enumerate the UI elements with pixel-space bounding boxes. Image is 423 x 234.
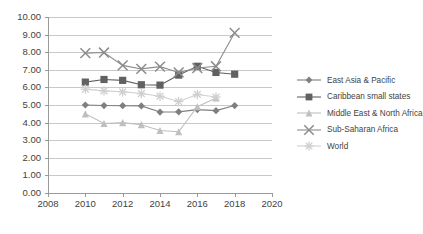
series-0 (82, 101, 239, 115)
data-point-x (230, 28, 240, 38)
y-axis-line (48, 17, 49, 194)
legend-item-2[interactable]: Middle East & North Africa (296, 105, 414, 122)
y-tick-label: 8.00 (0, 47, 41, 57)
data-point-diamond (231, 102, 238, 109)
data-point-diamond (306, 77, 313, 84)
x-tick-mark (85, 194, 86, 197)
x-tick-label: 2010 (75, 199, 96, 209)
x-tick-label: 2020 (261, 199, 282, 209)
legend-label: Caribbean small states (327, 92, 410, 101)
y-tick-label: 3.00 (0, 135, 41, 145)
data-point-square (212, 69, 219, 76)
x-tick-mark (197, 194, 198, 197)
legend-label: Middle East & North Africa (327, 109, 423, 118)
y-tick-label: 1.00 (0, 170, 41, 180)
y-tick-label: 6.00 (0, 82, 41, 92)
legend-marker-diamond-icon (296, 74, 322, 86)
x-tick-label: 2012 (112, 199, 133, 209)
data-point-diamond (156, 108, 163, 115)
legend-item-1[interactable]: Caribbean small states (296, 89, 414, 106)
legend-item-3[interactable]: Sub-Saharan Africa (296, 122, 414, 139)
data-point-x (118, 61, 128, 71)
data-point-asterisk (137, 89, 146, 98)
data-point-asterisk (81, 84, 90, 93)
plot-area (48, 17, 272, 193)
y-tick-label: 7.00 (0, 65, 41, 75)
series-layer (48, 17, 272, 193)
y-tick-label: 9.00 (0, 30, 41, 40)
series-2 (82, 94, 220, 135)
data-point-triangle (194, 103, 201, 110)
x-tick-label: 2008 (37, 199, 58, 209)
x-tick-mark (272, 194, 273, 197)
data-point-square (119, 77, 126, 84)
y-tick-label: 10.00 (0, 12, 41, 22)
data-point-square (138, 81, 145, 88)
y-tick-label: 5.00 (0, 100, 41, 110)
series-4 (81, 84, 221, 106)
y-tick-label: 4.00 (0, 118, 41, 128)
data-point-triangle (82, 110, 89, 117)
legend-marker-triangle-icon (296, 107, 322, 119)
data-point-asterisk (193, 90, 202, 99)
data-point-diamond (82, 101, 89, 108)
data-point-asterisk (174, 97, 183, 106)
x-tick-label: 2014 (149, 199, 170, 209)
legend-label: Sub-Saharan Africa (327, 125, 398, 134)
data-point-asterisk (155, 92, 164, 101)
data-point-diamond (212, 107, 219, 114)
y-tick-label: 2.00 (0, 153, 41, 163)
x-tick-mark (48, 194, 49, 197)
y-tick-label: 0.00 (0, 188, 41, 198)
data-point-asterisk (99, 86, 108, 95)
data-point-diamond (138, 102, 145, 109)
legend: East Asia & PacificCaribbean small state… (296, 72, 414, 155)
data-point-asterisk (305, 142, 314, 151)
data-point-asterisk (211, 92, 220, 101)
data-point-square (306, 93, 313, 100)
x-tick-label: 2016 (187, 199, 208, 209)
legend-item-4[interactable]: World (296, 138, 414, 155)
data-point-square (231, 71, 238, 78)
x-tick-mark (160, 194, 161, 197)
legend-label: World (327, 142, 348, 151)
legend-marker-asterisk-icon (296, 140, 322, 152)
x-tick-mark (123, 194, 124, 197)
x-tick-mark (235, 194, 236, 197)
x-tick-label: 2018 (224, 199, 245, 209)
data-point-square (100, 76, 107, 83)
legend-label: East Asia & Pacific (327, 76, 395, 85)
legend-item-0[interactable]: East Asia & Pacific (296, 72, 414, 89)
data-point-square (156, 82, 163, 89)
legend-marker-square-icon (296, 91, 322, 103)
data-point-diamond (119, 102, 126, 109)
data-point-diamond (100, 102, 107, 109)
data-point-asterisk (118, 87, 127, 96)
legend-marker-x-icon (296, 124, 322, 136)
data-point-diamond (175, 108, 182, 115)
